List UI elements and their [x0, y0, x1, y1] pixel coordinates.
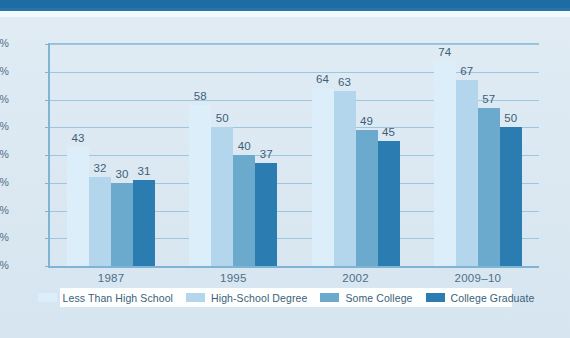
y-axis-label: 50% — [0, 120, 9, 132]
y-axis-label: 0% — [0, 259, 9, 271]
x-axis-label: 1995 — [172, 272, 294, 284]
y-axis-tick — [45, 100, 50, 101]
x-axis-line — [48, 266, 539, 268]
y-axis-label: 20% — [0, 204, 9, 216]
bar-value-label: 50 — [494, 112, 528, 124]
y-axis-label: 70% — [0, 65, 9, 77]
bar — [378, 141, 400, 266]
bar-value-label: 57 — [472, 93, 506, 105]
bar-value-label: 31 — [127, 165, 161, 177]
bar — [233, 155, 255, 266]
bar — [456, 80, 478, 266]
legend-label: Less Than High School — [63, 292, 173, 304]
bar — [478, 108, 500, 266]
y-axis-tick — [45, 183, 50, 184]
bar-value-label: 43 — [61, 132, 95, 144]
plot-area: 0%10%20%30%40%50%60%70%80% 4332303158504… — [48, 43, 539, 266]
x-axis-label: 1987 — [50, 272, 172, 284]
bar — [189, 105, 211, 266]
gridline — [50, 44, 539, 45]
bar-value-label: 74 — [428, 46, 462, 58]
legend-label: High-School Degree — [211, 292, 307, 304]
y-axis-label: 40% — [0, 148, 9, 160]
bar-value-label: 45 — [372, 126, 406, 138]
y-axis-tick — [45, 44, 50, 45]
y-axis-tick — [45, 211, 50, 212]
legend-label: College Graduate — [451, 292, 535, 304]
top-white-strip — [0, 11, 570, 17]
legend-item[interactable]: College Graduate — [426, 292, 535, 304]
legend-swatch-icon — [186, 293, 205, 302]
bar-value-label: 58 — [183, 90, 217, 102]
y-axis-tick — [45, 72, 50, 73]
bar-value-label: 50 — [205, 112, 239, 124]
y-axis-label: 30% — [0, 176, 9, 188]
legend-swatch-icon — [38, 293, 57, 302]
bar — [434, 61, 456, 266]
x-axis-label: 2009–10 — [417, 272, 539, 284]
legend-item[interactable]: Some College — [320, 292, 412, 304]
legend-item[interactable]: High-School Degree — [186, 292, 307, 304]
legend-label: Some College — [345, 292, 412, 304]
y-axis-tick — [45, 155, 50, 156]
y-axis-label: 60% — [0, 93, 9, 105]
bar — [111, 183, 133, 266]
y-axis-label: 10% — [0, 231, 9, 243]
bar — [133, 180, 155, 266]
bar — [89, 177, 111, 266]
bar-value-label: 67 — [450, 65, 484, 77]
chart-legend: Less Than High SchoolHigh-School DegreeS… — [60, 288, 512, 307]
y-axis-tick — [45, 238, 50, 239]
bar-value-label: 37 — [249, 148, 283, 160]
legend-item[interactable]: Less Than High School — [38, 292, 173, 304]
legend-swatch-icon — [426, 293, 445, 302]
bar — [500, 127, 522, 266]
bar — [356, 130, 378, 266]
bar — [255, 163, 277, 266]
y-axis-tick — [45, 127, 50, 128]
bar-value-label: 63 — [328, 76, 362, 88]
x-axis-label: 2002 — [295, 272, 417, 284]
bar — [312, 88, 334, 266]
y-axis-label: 80% — [0, 37, 9, 49]
chart-figure: 0%10%20%30%40%50%60%70%80% 4332303158504… — [0, 0, 570, 338]
legend-swatch-icon — [320, 293, 339, 302]
